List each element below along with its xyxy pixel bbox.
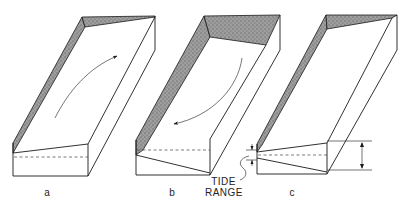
panel-b-head: [204, 15, 280, 45]
panel-a-flow-arrow-icon: [55, 56, 117, 118]
panel-b-left-bank: [136, 16, 210, 155]
tide-range-label-line2: RANGE: [205, 187, 243, 198]
panel-c-head: [326, 15, 397, 29]
panel-c-label: c: [290, 187, 295, 198]
panel-c-tide-range-dimension: [327, 141, 372, 170]
panel-b-label: b: [169, 187, 175, 198]
tidal-block-diagrams: a b: [0, 0, 407, 202]
tide-range-leader-line: [240, 156, 249, 180]
tide-range-label-line1: TIDE: [211, 176, 236, 187]
panel-a: a: [13, 16, 155, 198]
panel-a-left-bank: [13, 17, 85, 153]
panel-a-outline: [13, 16, 155, 176]
panel-b: b: [136, 15, 280, 198]
panel-a-label: a: [44, 187, 50, 198]
panel-c-mouth-tide-marks: [246, 144, 257, 166]
panel-a-head: [82, 16, 155, 27]
